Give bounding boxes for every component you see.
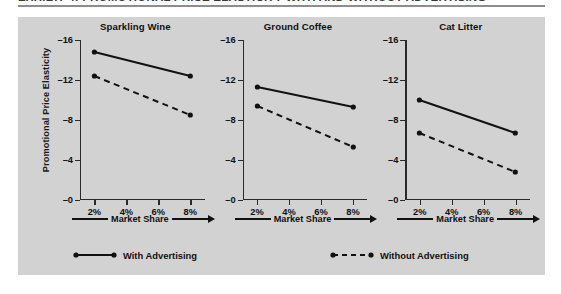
- axis-arrow-right-icon: [497, 215, 540, 223]
- y-axis-tick-label: –16: [57, 35, 73, 45]
- y-axis-tick-label: –8: [388, 115, 398, 125]
- x-axis-tick: [353, 200, 354, 205]
- y-axis-tick: [238, 200, 243, 201]
- y-axis-tick-label: –4: [225, 155, 235, 165]
- legend-label-with-advertising: With Advertising: [123, 250, 197, 261]
- panel-title: Sparkling Wine: [54, 21, 217, 32]
- panel-3: Cat Litter–0–4–8–12–162%4%6%8%Market Sha…: [379, 21, 542, 235]
- marker-layer: [405, 40, 530, 200]
- y-axis-tick-label: –0: [63, 195, 73, 205]
- x-axis-title-bar: Market Share: [235, 211, 378, 227]
- x-axis-title-bar: Market Share: [72, 211, 215, 227]
- header-divider: [18, 5, 545, 7]
- y-axis-tick-label: –12: [57, 75, 73, 85]
- y-axis-tick-label: –0: [388, 195, 398, 205]
- legend-item-without-advertising: Without Advertising: [267, 245, 524, 265]
- x-axis-tick: [321, 200, 322, 205]
- axis-rule-left: [235, 218, 271, 220]
- y-axis-tick-label: –12: [383, 75, 399, 85]
- panel-2: Ground Coffee–0–4–8–12–162%4%6%8%Market …: [217, 21, 380, 235]
- y-axis-title: Promotional Price Elasticity: [41, 30, 51, 190]
- x-axis-title: Market Share: [274, 214, 332, 224]
- data-point: [188, 73, 193, 78]
- x-axis-title: Market Share: [436, 214, 494, 224]
- data-point: [417, 97, 422, 102]
- y-axis-tick-label: –4: [388, 155, 398, 165]
- marker-layer: [80, 40, 205, 200]
- x-axis-tick: [516, 200, 517, 205]
- x-axis-tick: [94, 200, 95, 205]
- y-axis-tick: [75, 200, 80, 201]
- plot-area: –0–4–8–12–162%4%6%8%: [405, 40, 530, 200]
- panel-1: Sparkling Wine–0–4–8–12–162%4%6%8%Market…: [54, 21, 217, 235]
- y-axis-tick: [400, 200, 405, 201]
- axis-rule-left: [397, 218, 433, 220]
- data-point: [350, 144, 355, 149]
- y-axis-tick-label: –8: [63, 115, 73, 125]
- x-axis-tick: [289, 200, 290, 205]
- x-axis-title: Market Share: [111, 214, 169, 224]
- y-axis-tick-label: –4: [63, 155, 73, 165]
- axis-arrow-right-icon: [334, 215, 377, 223]
- x-axis-title-bar: Market Share: [397, 211, 540, 227]
- axis-rule-left: [72, 218, 108, 220]
- x-axis-tick: [420, 200, 421, 205]
- data-point: [92, 49, 97, 54]
- legend-item-with-advertising: With Advertising: [54, 245, 267, 265]
- y-axis-tick-label: –8: [225, 115, 235, 125]
- y-axis-tick-label: –16: [383, 35, 399, 45]
- data-point: [254, 103, 259, 108]
- x-axis-tick: [257, 200, 258, 205]
- solid-line-swatch-icon: [72, 250, 118, 260]
- x-axis-tick: [126, 200, 127, 205]
- data-point: [350, 104, 355, 109]
- x-axis-tick: [158, 200, 159, 205]
- panel-title: Ground Coffee: [217, 21, 380, 32]
- figure-headline: EXHIBIT 4: PROMOTIONAL PRICE ELASTICITY …: [18, 0, 543, 3]
- data-point: [188, 112, 193, 117]
- marker-layer: [243, 40, 368, 200]
- legend-label-without-advertising: Without Advertising: [380, 250, 469, 261]
- figure-container: EXHIBIT 4: PROMOTIONAL PRICE ELASTICITY …: [0, 0, 561, 294]
- y-axis-tick-label: –12: [220, 75, 236, 85]
- data-point: [513, 130, 518, 135]
- x-axis-tick: [190, 200, 191, 205]
- plot-area: –0–4–8–12–162%4%6%8%: [80, 40, 205, 200]
- chart-legend: With Advertising Without Advertising: [54, 245, 524, 265]
- y-axis-tick-label: –16: [220, 35, 236, 45]
- chart-plate: Promotional Price Elasticity Sparkling W…: [18, 17, 545, 275]
- data-point: [254, 84, 259, 89]
- y-axis-tick-label: –0: [225, 195, 235, 205]
- axis-arrow-right-icon: [172, 215, 215, 223]
- data-point: [417, 130, 422, 135]
- panel-title: Cat Litter: [379, 21, 542, 32]
- panels-row: Sparkling Wine–0–4–8–12–162%4%6%8%Market…: [54, 21, 542, 235]
- data-point: [513, 169, 518, 174]
- data-point: [92, 73, 97, 78]
- x-axis-tick: [484, 200, 485, 205]
- x-axis-tick: [452, 200, 453, 205]
- dashed-line-swatch-icon: [329, 250, 375, 260]
- plot-area: –0–4–8–12–162%4%6%8%: [243, 40, 368, 200]
